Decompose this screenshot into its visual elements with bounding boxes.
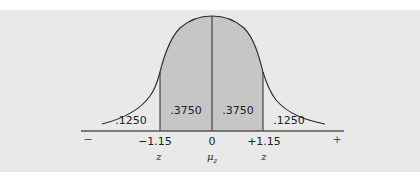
sublabel-right-z: z — [261, 152, 266, 162]
mu-subscript: z — [213, 157, 217, 165]
tick-label-left: −1.15 — [138, 136, 172, 147]
tick-label-center: 0 — [209, 136, 216, 147]
area-right-tail-label: .1250 — [273, 115, 305, 126]
tick-label-right: +1.15 — [247, 136, 281, 147]
area-left-tail-label: .1250 — [115, 115, 147, 126]
sublabel-mu-z: μz — [207, 152, 217, 165]
area-left-center-label: .3750 — [170, 105, 202, 116]
axis-plus-sign: + — [332, 134, 341, 145]
axis-minus-sign: − — [83, 134, 92, 145]
sublabel-left-z: z — [156, 152, 161, 162]
area-right-center-label: .3750 — [222, 105, 254, 116]
